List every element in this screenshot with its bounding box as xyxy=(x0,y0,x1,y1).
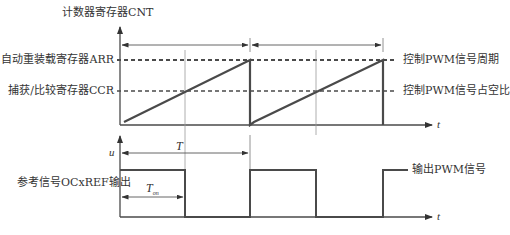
pwm-time-label: t xyxy=(437,210,440,222)
on-time-subscript: on xyxy=(153,190,159,196)
pwm-axis-label: u xyxy=(109,146,115,158)
counter-axis-label: 计数器寄存器CNT xyxy=(62,7,153,19)
counter-plot xyxy=(117,27,432,218)
pwm-waveform xyxy=(120,170,408,217)
counter-sawtooth xyxy=(124,60,383,125)
output-note: 输出PWM信号 xyxy=(412,164,486,176)
on-time-label-main: T xyxy=(146,181,153,195)
pwm-plot xyxy=(120,135,432,217)
ccr-note: 控制PWM信号占空比 xyxy=(403,85,510,97)
counter-time-label: t xyxy=(437,118,440,130)
ccr-label: 捕获/比较寄存器CCR xyxy=(8,85,114,97)
period-label: T xyxy=(176,140,183,152)
arr-note: 控制PWM信号周期 xyxy=(403,54,499,66)
arr-label: 自动重装载寄存器ARR xyxy=(1,54,114,66)
on-time-label: Ton xyxy=(146,182,159,199)
signal-label: 参考信号OCxREF输出 xyxy=(17,177,131,189)
